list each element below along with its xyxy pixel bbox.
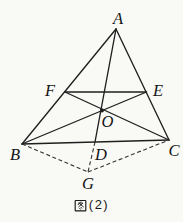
figure-2-panel: ABCDEFOG (2): [0, 0, 183, 222]
point-label-G: G: [82, 174, 94, 193]
caption-number: (2): [89, 198, 109, 212]
segment-BG: [22, 144, 88, 172]
segment-BE: [22, 92, 147, 144]
point-label-B: B: [10, 145, 20, 164]
point-label-F: F: [44, 81, 56, 100]
figure-caption: (2): [0, 198, 183, 212]
point-labels-group: ABCDEFOG: [10, 9, 181, 193]
point-label-E: E: [152, 81, 163, 100]
point-label-A: A: [112, 9, 124, 28]
segment-DG: [88, 142, 95, 172]
point-label-C: C: [168, 141, 180, 160]
point-label-O: O: [102, 112, 114, 131]
tu-character-icon: [74, 199, 87, 212]
geometry-figure: ABCDEFOG: [0, 0, 183, 222]
point-label-D: D: [94, 145, 107, 164]
